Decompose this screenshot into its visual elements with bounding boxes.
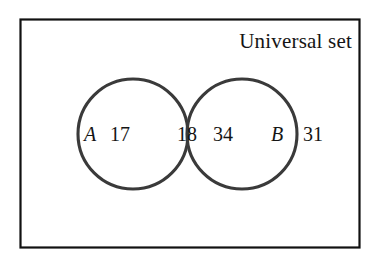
venn-diagram-figure: Universal set A 17 18 34 B 31	[0, 0, 374, 263]
set-b-only-count: 34	[213, 123, 233, 145]
universal-set-title: Universal set	[239, 29, 352, 53]
intersection-count: 18	[177, 123, 197, 145]
set-a-label: A	[82, 123, 97, 145]
set-b-label: B	[271, 123, 283, 145]
set-a-only-count: 17	[110, 123, 130, 145]
venn-diagram-canvas: Universal set A 17 18 34 B 31	[0, 0, 374, 263]
outside-count: 31	[303, 123, 323, 145]
